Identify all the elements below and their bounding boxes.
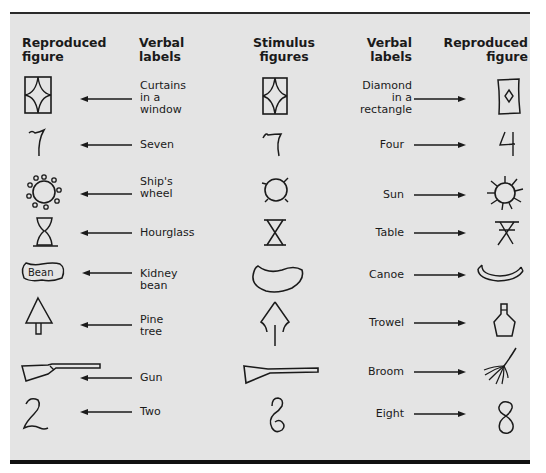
- right-verbal-label: Sun: [340, 189, 404, 201]
- label-line: tree: [140, 326, 163, 338]
- left-arrow-icon: [80, 320, 132, 330]
- label-line: wheel: [140, 188, 173, 200]
- reproduced-ships-wheel-icon: [24, 172, 64, 212]
- header-line: Stimulus: [248, 36, 320, 50]
- header-line: Reproduced: [424, 36, 528, 50]
- left-arrow-icon: [80, 94, 132, 104]
- label-line: bean: [140, 280, 178, 292]
- right-arrow-icon: [414, 367, 466, 377]
- stimulus-seven-like-icon: [262, 128, 288, 158]
- reproduced-broom-icon: [480, 346, 520, 388]
- stimulus-two-eight-icon: [266, 396, 290, 436]
- left-verbal-label: Hourglass: [140, 227, 195, 239]
- right-verbal-label: Broom: [340, 366, 404, 378]
- right-verbal-label: Diamond in a rectangle: [340, 80, 412, 116]
- left-verbal-label: Kidney bean: [140, 268, 178, 292]
- header-right-verbal: Verbal labels: [360, 36, 412, 64]
- reproduced-hourglass-icon: [33, 216, 61, 248]
- header-line: figures: [248, 50, 320, 64]
- label-line: Sun: [340, 189, 404, 201]
- right-arrow-icon: [414, 140, 466, 150]
- right-verbal-label: Eight: [340, 408, 404, 420]
- reproduced-four-icon: [498, 130, 522, 160]
- stimulus-tree-trowel-icon: [258, 300, 294, 348]
- header-left-verbal: Verbal labels: [139, 36, 184, 64]
- left-arrow-icon: [80, 407, 132, 417]
- header-line: figure: [22, 50, 107, 64]
- reproduced-pine-tree-icon: [24, 296, 56, 340]
- left-verbal-label: Gun: [140, 372, 162, 384]
- label-line: Trowel: [340, 317, 404, 329]
- left-verbal-label: Curtains in a window: [140, 80, 186, 116]
- label-line: Four: [340, 139, 404, 151]
- right-verbal-label: Canoe: [340, 269, 404, 281]
- right-arrow-icon: [414, 409, 466, 419]
- label-line: Eight: [340, 408, 404, 420]
- label-line: Broom: [340, 366, 404, 378]
- header-left-reproduced: Reproduced figure: [22, 36, 107, 64]
- stimulus-bean-shape-icon: [250, 264, 306, 296]
- left-arrow-icon: [80, 228, 132, 238]
- right-arrow-icon: [414, 190, 466, 200]
- right-arrow-icon: [414, 270, 466, 280]
- right-arrow-icon: [414, 94, 466, 104]
- reproduced-trowel-icon: [491, 302, 521, 342]
- reproduced-two-icon: [22, 396, 52, 432]
- reproduced-table-icon: [494, 220, 522, 248]
- right-arrow-icon: [414, 318, 466, 328]
- label-line: rectangle: [340, 104, 412, 116]
- label-line: Gun: [140, 372, 162, 384]
- header-line: figure: [424, 50, 528, 64]
- bean-text: Bean: [28, 267, 53, 278]
- header-line: labels: [139, 50, 184, 64]
- header-right-reproduced: Reproduced figure: [424, 36, 528, 64]
- label-line: Hourglass: [140, 227, 195, 239]
- reproduced-canoe-icon: [476, 263, 526, 287]
- header-line: Verbal: [360, 36, 412, 50]
- right-verbal-label: Table: [340, 227, 404, 239]
- header-line: labels: [360, 50, 412, 64]
- header-line: Reproduced: [22, 36, 107, 50]
- left-verbal-label: Two: [140, 406, 161, 418]
- stimulus-circle-with-spokes-icon: [258, 172, 294, 208]
- right-verbal-label: Four: [340, 139, 404, 151]
- header-line: Verbal: [139, 36, 184, 50]
- right-verbal-label: Trowel: [340, 317, 404, 329]
- left-verbal-label: Seven: [140, 139, 174, 151]
- right-arrow-icon: [414, 228, 466, 238]
- label-line: Canoe: [340, 269, 404, 281]
- reproduced-eight-icon: [494, 400, 518, 436]
- reproduced-sun-icon: [483, 172, 527, 214]
- left-arrow-icon: [82, 268, 132, 278]
- left-verbal-label: Ship's wheel: [140, 176, 173, 200]
- reproduced-curtains-icon: [24, 76, 54, 116]
- stimulus-hourglass-table-icon: [262, 218, 290, 248]
- left-verbal-label: Pine tree: [140, 314, 163, 338]
- left-arrow-icon: [80, 189, 132, 199]
- left-arrow-icon: [80, 140, 132, 150]
- label-line: Table: [340, 227, 404, 239]
- reproduced-bean-icon: Bean: [20, 260, 68, 286]
- header-stimulus: Stimulus figures: [248, 36, 320, 64]
- stimulus-gun-broom-icon: [242, 364, 322, 386]
- left-arrow-icon: [80, 373, 132, 383]
- reproduced-seven-icon: [26, 128, 50, 158]
- label-line: window: [140, 104, 186, 116]
- label-line: Two: [140, 406, 161, 418]
- label-line: Seven: [140, 139, 174, 151]
- reproduced-diamond-rectangle-icon: [496, 78, 524, 116]
- stimulus-curtains-rectangle-icon: [262, 77, 292, 117]
